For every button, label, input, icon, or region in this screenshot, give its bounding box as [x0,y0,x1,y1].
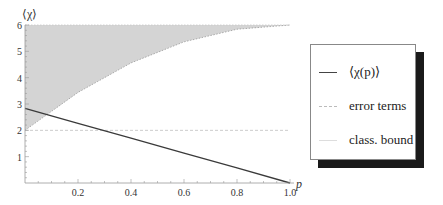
error-terms-region [25,25,290,130]
legend-item-class-bound: class. bound [319,132,413,148]
legend-item-error-terms: error terms [319,98,406,114]
legend-label: class. bound [349,132,413,148]
legend-label: ⟨χ(p)⟩ [349,64,380,80]
svg-text:5: 5 [17,46,22,57]
svg-text:6: 6 [17,20,22,31]
svg-text:4: 4 [17,73,22,84]
legend-label: error terms [349,98,406,114]
svg-text:0.8: 0.8 [231,187,244,198]
legend-item-chi-p: ⟨χ(p)⟩ [319,64,380,80]
svg-text:1: 1 [17,152,22,163]
light-line-swatch-icon [319,140,337,141]
dotted-line-swatch-icon [319,106,337,107]
x-axis-label: p [295,177,302,191]
svg-text:2: 2 [17,125,22,136]
svg-text:3: 3 [17,99,22,110]
svg-text:0.2: 0.2 [72,187,85,198]
svg-text:1.0: 1.0 [284,187,297,198]
y-axis-label: ⟨χ⟩ [22,7,37,21]
svg-text:0.4: 0.4 [125,187,138,198]
svg-text:0.6: 0.6 [178,187,191,198]
chi-p-line [25,108,290,183]
solid-line-swatch-icon [319,72,337,73]
legend: ⟨χ(p)⟩ error terms class. bound [310,44,416,160]
